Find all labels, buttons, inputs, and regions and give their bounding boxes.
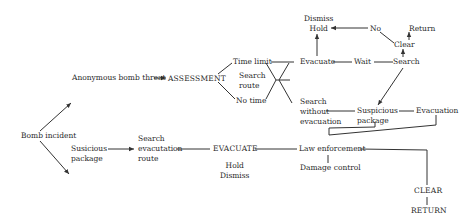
node-assessment: ASSESSMENT bbox=[168, 74, 226, 84]
swe-line1: Search bbox=[300, 97, 341, 107]
node-search-without-evacuation: Search without evacuation bbox=[300, 97, 341, 127]
connector-lines bbox=[0, 0, 473, 224]
edge-assessment-to-timelimit bbox=[218, 63, 232, 74]
node-susicious-package: Susicious package bbox=[71, 144, 107, 164]
dismiss-caps-line: Dismiss bbox=[220, 171, 249, 181]
edge-assessment-to-notime bbox=[218, 82, 235, 99]
node-evacuate-caps: EVACUATE bbox=[213, 144, 258, 154]
node-dismiss-hold: Dismiss Hold bbox=[304, 14, 333, 34]
node-clear: Clear bbox=[394, 40, 415, 50]
node-anonymous-bomb-threat: Anonymous bomb threat bbox=[72, 73, 166, 83]
hold-label: Hold bbox=[304, 24, 333, 34]
node-return: Return bbox=[409, 24, 435, 34]
node-evacuation: Evacuation bbox=[416, 106, 458, 116]
hourglass-left bbox=[266, 63, 276, 99]
edge-incident-to-threat bbox=[40, 103, 71, 131]
swe-line2: without bbox=[300, 107, 341, 117]
susp-line2: package bbox=[71, 154, 107, 164]
search-route-line1: Search bbox=[239, 71, 266, 81]
edge-no-clear bbox=[380, 32, 394, 43]
swe-line3: evacuation bbox=[300, 117, 341, 127]
node-search-evacutation-route: Search evacutation route bbox=[138, 134, 182, 164]
node-search-route: Search route bbox=[239, 71, 266, 91]
node-law-enforcement: Law enforcement bbox=[299, 144, 365, 154]
sp-line2: package bbox=[357, 116, 398, 126]
ser-line1: Search bbox=[138, 134, 182, 144]
node-search: Search bbox=[393, 57, 420, 67]
node-damage-control: Damage control bbox=[300, 163, 361, 173]
dismiss-label: Dismiss bbox=[304, 14, 333, 24]
ser-line3: route bbox=[138, 154, 182, 164]
bomb-incident-flowchart: Bomb incident Anonymous bomb threat ASSE… bbox=[0, 0, 473, 224]
node-no-time: No time bbox=[236, 96, 266, 106]
edge-law-clear bbox=[360, 149, 427, 185]
node-time-limit: Time limit bbox=[233, 57, 272, 67]
node-return-caps: RETURN bbox=[411, 206, 447, 216]
node-clear-caps: CLEAR bbox=[414, 186, 442, 196]
hold-caps-line: Hold bbox=[220, 161, 249, 171]
ser-line2: evacutation bbox=[138, 144, 182, 154]
node-wait: Wait bbox=[354, 57, 371, 67]
node-evacuate: Evacuate bbox=[300, 57, 335, 67]
node-bomb-incident: Bomb incident bbox=[21, 131, 76, 141]
susp-line1: Susicious bbox=[71, 144, 107, 154]
hourglass-right bbox=[279, 63, 292, 103]
node-hold-dismiss: Hold Dismiss bbox=[220, 161, 249, 181]
edge-incident-to-package bbox=[40, 141, 69, 174]
sp-line1: Suspicious bbox=[357, 106, 398, 116]
node-suspicious-package: Suspicious package bbox=[357, 106, 398, 126]
edge-search-to-suspicious bbox=[378, 68, 403, 105]
search-route-line2: route bbox=[239, 81, 266, 91]
node-no: No bbox=[370, 24, 381, 34]
